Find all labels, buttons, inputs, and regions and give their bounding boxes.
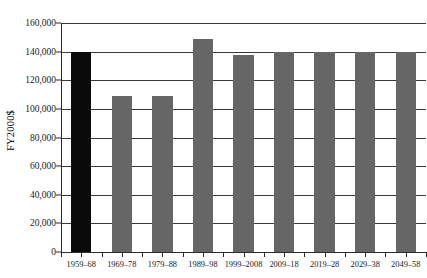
- bar: [274, 52, 294, 252]
- y-axis-tick-label: 60,000: [30, 161, 56, 171]
- x-axis-tick-mark: [385, 252, 386, 257]
- x-axis-tick-mark: [81, 252, 82, 257]
- bar: [314, 52, 334, 252]
- x-axis-tick-label: 2019–28: [310, 260, 339, 269]
- x-axis-tick-label: 1959–68: [67, 260, 96, 269]
- x-axis-tick-mark: [244, 252, 245, 257]
- x-axis-tick-mark: [325, 252, 326, 257]
- x-axis-tick-mark: [406, 252, 407, 257]
- x-axis-tick-mark: [183, 252, 184, 257]
- bar: [112, 96, 132, 252]
- y-axis-line: [61, 23, 62, 253]
- x-axis-tick-mark: [284, 252, 285, 257]
- x-axis-tick-mark: [304, 252, 305, 257]
- x-axis-tick-mark: [203, 252, 204, 257]
- x-axis-tick-mark: [142, 252, 143, 257]
- y-axis-tick-label: 40,000: [30, 190, 56, 200]
- x-axis-tick-mark: [264, 252, 265, 257]
- x-axis-tick-mark: [102, 252, 103, 257]
- bar-chart: FY2000$ 160,000140,000120,000100,00080,0…: [0, 0, 427, 278]
- y-axis-tick-label: 20,000: [30, 218, 56, 228]
- x-axis-tick-mark: [345, 252, 346, 257]
- x-axis-tick-label: 1969–78: [107, 260, 136, 269]
- x-axis-tick-mark: [162, 252, 163, 257]
- y-axis-tick-labels: 160,000140,000120,000100,00080,00060,000…: [0, 0, 56, 278]
- x-axis-tick-mark: [61, 252, 62, 257]
- bar: [355, 52, 375, 252]
- x-axis-tick-label: 2029–38: [351, 260, 380, 269]
- bar: [71, 52, 91, 252]
- x-axis-tick-mark: [122, 252, 123, 257]
- bar: [233, 55, 253, 253]
- bar: [396, 52, 416, 252]
- y-axis-tick-label: 80,000: [30, 133, 56, 143]
- x-axis-tick-label: 1979–88: [148, 260, 177, 269]
- x-axis-tick-label: 1989–98: [188, 260, 217, 269]
- x-axis-tick-label: 1999–2008: [225, 260, 263, 269]
- x-axis-tick-label: 2009–18: [269, 260, 298, 269]
- plot-area: [61, 23, 426, 252]
- x-axis-tick-mark: [365, 252, 366, 257]
- bar: [193, 39, 213, 252]
- gridline: [61, 23, 426, 24]
- x-axis-tick-mark: [223, 252, 224, 257]
- y-axis-tick-label: 100,000: [25, 104, 56, 114]
- bar: [152, 96, 172, 252]
- y-axis-tick-label: 120,000: [25, 75, 56, 85]
- x-axis-tick-label: 2049–58: [391, 260, 420, 269]
- y-axis-tick-label: 140,000: [25, 47, 56, 57]
- y-axis-tick-label: 160,000: [25, 18, 56, 28]
